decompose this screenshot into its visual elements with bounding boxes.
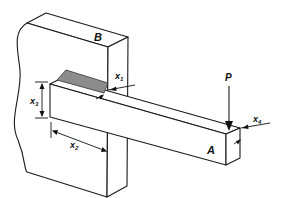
label-b: B [94,31,102,43]
diagram: B A P x1 x2 x3 x4 [0,0,282,198]
weld-beam-drawing: B A P x1 x2 x3 x4 [0,0,282,198]
label-p: P [225,72,232,83]
label-x4: x4 [252,114,262,125]
label-a: A [206,144,215,156]
